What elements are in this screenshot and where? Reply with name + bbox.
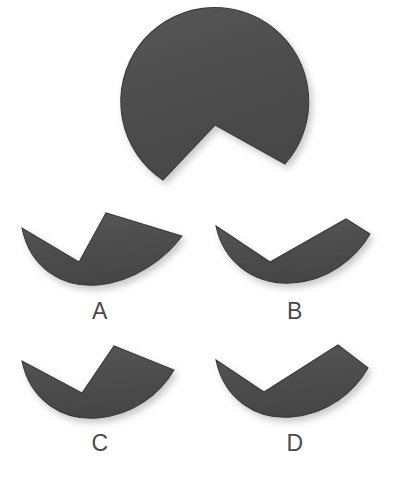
prompt-figure-hitarea[interactable] bbox=[105, 28, 303, 188]
option-b-label: B bbox=[275, 300, 315, 323]
option-a-label: A bbox=[80, 300, 120, 323]
option-d-label: D bbox=[275, 432, 315, 455]
shape-puzzle-container: A B C D bbox=[0, 0, 402, 480]
option-c-label: C bbox=[80, 432, 120, 455]
